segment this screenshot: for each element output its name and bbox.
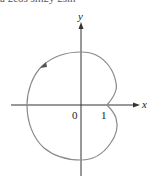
y-axis-arrow-icon xyxy=(79,22,84,29)
origin-label: 0 xyxy=(72,109,78,121)
y-axis-label: y xyxy=(77,10,83,22)
curve xyxy=(27,52,117,160)
direction-arrow-icon xyxy=(40,62,47,68)
x-axis-label: x xyxy=(141,98,147,110)
x-tick-1-label: 1 xyxy=(101,109,107,121)
x-axis-arrow-icon xyxy=(133,103,140,108)
polar-curve-plot: y x 0 1 xyxy=(0,0,156,182)
